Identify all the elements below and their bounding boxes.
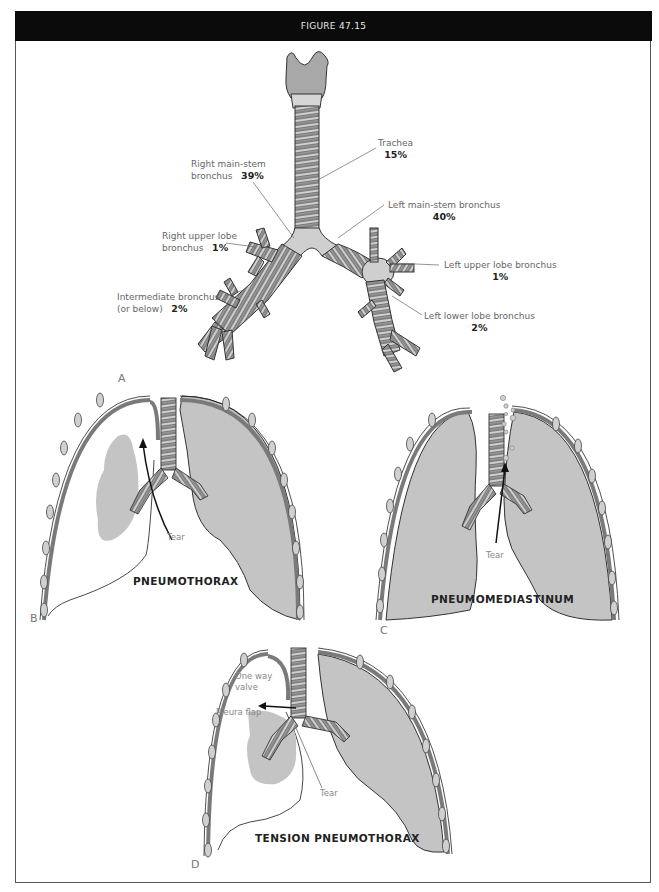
label-left-lower-lobe-bronchus: Left lower lobe bronchus 2% bbox=[424, 310, 535, 334]
title-tension-pneumothorax: TENSION PNEUMOTHORAX bbox=[255, 832, 420, 844]
pneumomediastinum-illustration bbox=[376, 395, 619, 620]
one-way-valve-label: One way valve bbox=[235, 671, 272, 693]
label-left-upper-lobe-bronchus: Left upper lobe bronchus 1% bbox=[444, 259, 557, 283]
tear-label-d: Tear bbox=[320, 788, 338, 799]
airway-tree bbox=[198, 51, 420, 372]
panel-letter-d: D bbox=[191, 858, 199, 871]
label-left-main-stem-bronchus: Left main-stem bronchus 40% bbox=[388, 199, 500, 223]
label-trachea: Trachea 15% bbox=[378, 137, 413, 161]
tear-label-b: Tear bbox=[167, 532, 185, 543]
title-pneumothorax: PNEUMOTHORAX bbox=[133, 575, 239, 587]
panel-letter-c: C bbox=[380, 624, 388, 637]
panel-letter-a: A bbox=[118, 372, 126, 385]
label-right-upper-lobe-bronchus: Right upper lobe bronchus 1% bbox=[162, 230, 237, 254]
pleura-flap-label: Pleura flap bbox=[216, 707, 261, 718]
title-pneumomediastinum: PNEUMOMEDIASTINUM bbox=[431, 593, 574, 605]
figure-illustration bbox=[0, 0, 659, 892]
label-right-main-stem-bronchus: Right main-stem bronchus 39% bbox=[191, 158, 266, 182]
label-intermediate-bronchus: Intermediate bronchus (or below) 2% bbox=[117, 291, 219, 315]
tear-label-c: Tear bbox=[486, 550, 504, 561]
panel-letter-b: B bbox=[30, 612, 38, 625]
